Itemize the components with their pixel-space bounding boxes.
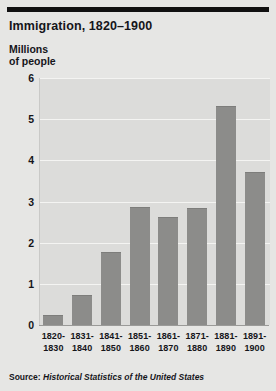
bar xyxy=(245,172,265,325)
y-tick-label: 6 xyxy=(0,72,34,84)
header-rule xyxy=(7,7,269,12)
bar xyxy=(158,217,178,325)
y-tick-label: 4 xyxy=(0,154,34,166)
y-tick-label: 5 xyxy=(0,113,34,125)
bar xyxy=(130,207,150,325)
x-axis-line xyxy=(39,325,269,326)
x-tick-label: 1891- 1900 xyxy=(240,331,269,354)
y-tick-label: 0 xyxy=(0,319,34,331)
x-tick-label: 1831- 1840 xyxy=(68,331,97,354)
x-tick-label: 1841- 1850 xyxy=(97,331,126,354)
bar xyxy=(72,295,92,325)
bar xyxy=(101,252,121,325)
y-axis-ticks: 0123456 xyxy=(0,0,34,391)
source-title: Historical Statistics of the United Stat… xyxy=(43,372,204,382)
y-tick-label: 1 xyxy=(0,278,34,290)
x-tick-label: 1881- 1890 xyxy=(212,331,241,354)
y-tick-label: 2 xyxy=(0,237,34,249)
x-tick-label: 1861- 1870 xyxy=(154,331,183,354)
x-tick-label: 1851- 1860 xyxy=(125,331,154,354)
bar xyxy=(187,208,207,325)
bar xyxy=(43,315,63,325)
y-tick-label: 3 xyxy=(0,196,34,208)
bar-series xyxy=(39,78,269,325)
bar xyxy=(216,106,236,325)
x-tick-label: 1820- 1830 xyxy=(39,331,68,354)
x-axis-ticks: 1820- 18301831- 18401841- 18501851- 1860… xyxy=(39,331,271,357)
chart-page: Immigration, 1820–1900 Millions of peopl… xyxy=(0,0,276,391)
source-prefix: Source: xyxy=(9,372,43,382)
source-note: Source: Historical Statistics of the Uni… xyxy=(9,372,204,382)
x-tick-label: 1871- 1880 xyxy=(183,331,212,354)
